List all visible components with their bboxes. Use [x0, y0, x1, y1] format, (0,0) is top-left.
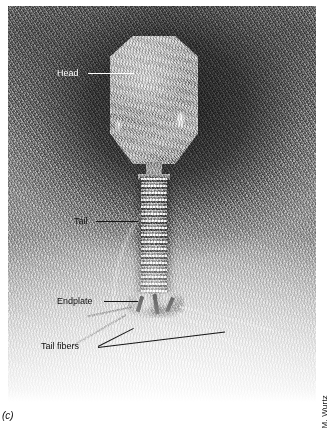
annotation-layer: Head Tail Endplate Tail fibers — [0, 0, 330, 432]
endplate-leader-line — [104, 301, 138, 302]
figure-panel: Head Tail Endplate Tail fibers (c) M. Wu… — [0, 0, 330, 432]
head-label: Head — [57, 68, 79, 79]
tail-label: Tail — [74, 216, 88, 227]
panel-label: (c) — [2, 410, 14, 421]
tail-fibers-label: Tail fibers — [41, 341, 79, 352]
tail-leader-line — [96, 221, 138, 222]
head-leader-line — [88, 73, 134, 74]
tail-fibers-leader-line — [98, 331, 225, 348]
photo-credit: M. Wurtz — [320, 395, 329, 428]
endplate-label: Endplate — [57, 296, 93, 307]
